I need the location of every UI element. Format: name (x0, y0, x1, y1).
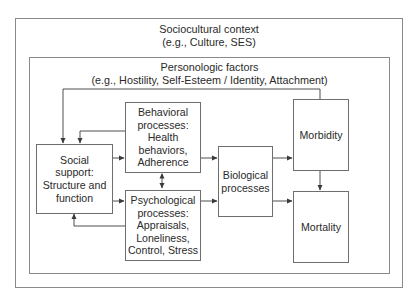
biological-line-2: processes (221, 182, 269, 195)
behavioral-line-5: Adherence (137, 156, 188, 169)
social-support-line-4: function (43, 192, 107, 205)
sociocultural-subtitle: (e.g., Culture, SES) (15, 36, 403, 49)
sociocultural-title: Sociocultural context (15, 23, 403, 36)
psychological-line-5: Control, Stress (128, 244, 198, 257)
social-support-line-3: Structure and (43, 179, 107, 192)
personologic-factors-label: Personologic factors (e.g., Hostility, S… (29, 61, 390, 87)
personologic-subtitle: (e.g., Hostility, Self-Esteem / Identity… (29, 74, 390, 87)
behavioral-line-2: processes: (137, 119, 188, 132)
mortality-label: Mortality (301, 221, 341, 234)
personologic-title: Personologic factors (29, 61, 390, 74)
biological-processes-box: Biological processes (218, 146, 273, 217)
social-support-box: Social support: Structure and function (36, 144, 113, 214)
morbidity-label: Morbidity (300, 129, 343, 142)
psychological-line-1: Psychological (128, 194, 198, 207)
behavioral-line-1: Behavioral (137, 106, 188, 119)
psychological-line-4: Loneliness, (128, 232, 198, 245)
social-support-line-2: support: (43, 166, 107, 179)
mortality-box: Mortality (293, 191, 349, 263)
psychological-line-3: Appraisals, (128, 219, 198, 232)
social-support-line-1: Social (43, 154, 107, 167)
psychological-line-2: processes: (128, 207, 198, 220)
behavioral-line-3: Health (137, 131, 188, 144)
morbidity-box: Morbidity (293, 99, 349, 171)
psychological-processes-box: Psychological processes: Appraisals, Lon… (125, 190, 201, 261)
behavioral-processes-box: Behavioral processes: Health behaviors, … (125, 102, 201, 173)
biological-line-1: Biological (221, 169, 269, 182)
behavioral-line-4: behaviors, (137, 144, 188, 157)
sociocultural-context-label: Sociocultural context (e.g., Culture, SE… (15, 23, 403, 49)
